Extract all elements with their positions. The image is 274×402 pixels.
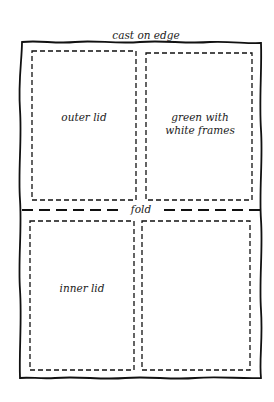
inner-lid-label: inner lid	[60, 282, 105, 294]
panel-bottom-right	[142, 221, 250, 370]
cast-on-edge-label: cast on edge	[112, 29, 179, 41]
green-with-label: green with	[171, 111, 229, 123]
fold-label: fold	[131, 203, 151, 215]
outer-lid-label: outer lid	[61, 111, 106, 123]
white-frames-label: white frames	[165, 124, 235, 136]
panel-bottom-left	[30, 221, 134, 370]
diagram-lines	[0, 0, 274, 402]
panel-top-left	[32, 51, 136, 200]
knitting-diagram: cast on edge outer lid green with white …	[0, 0, 274, 402]
